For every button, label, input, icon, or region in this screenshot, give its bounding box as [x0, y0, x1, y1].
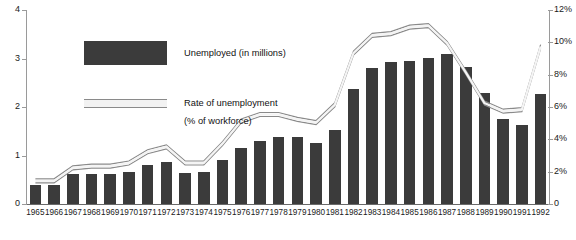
legend-swatch-line — [84, 99, 167, 108]
legend-entry-rate: Rate of unemployment — [84, 98, 278, 109]
right-axis-label-6%: 6% — [554, 102, 576, 111]
unemployment-chart: · · · 01234 02%4%6%8%10%12% 196519661967… — [0, 0, 576, 240]
right-axis-label-8%: 8% — [554, 70, 576, 79]
legend-entry-unemployed: Unemployed (in millions) — [84, 41, 286, 65]
left-axis-label-4: 4 — [2, 5, 20, 14]
legend-swatch-bar — [84, 41, 167, 65]
right-axis-label-2%: 2% — [554, 167, 576, 176]
right-axis-label-12%: 12% — [554, 5, 576, 14]
legend-label-unemployed: Unemployed (in millions) — [184, 48, 286, 59]
right-axis-label-4%: 4% — [554, 134, 576, 143]
left-axis-label-1: 1 — [2, 151, 20, 160]
legend-sublabel-rate: (% of workforce) — [184, 116, 252, 126]
left-axis-label-2: 2 — [2, 102, 20, 111]
title-remnant: · · · — [60, 0, 87, 2]
left-axis-label-0: 0 — [2, 199, 20, 208]
right-axis-label-0: 0 — [554, 199, 576, 208]
x-axis-labels: 1965196619671968196919701971197219731974… — [26, 208, 550, 222]
x-axis-label-1992: 1992 — [529, 208, 552, 218]
right-axis-label-10%: 10% — [554, 37, 576, 46]
legend-label-rate: Rate of unemployment — [184, 98, 278, 109]
left-axis-label-3: 3 — [2, 54, 20, 63]
